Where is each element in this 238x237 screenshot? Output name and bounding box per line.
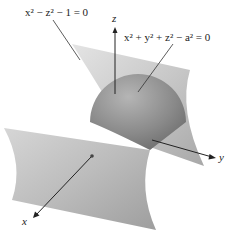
leader-line-cylinder [53,20,80,60]
z-axis-label: z [112,12,116,24]
z-axis-arrowhead [113,27,118,33]
x-axis-label: x [22,215,27,227]
sphere-equation: x² + y² + z² − a² = 0 [124,31,210,43]
y-axis-label: y [219,151,224,163]
origin-point [90,154,94,158]
y-axis-arrowhead [209,154,217,160]
hyperbolic-cylinder-equation: x² − z² − 1 = 0 [25,6,88,18]
